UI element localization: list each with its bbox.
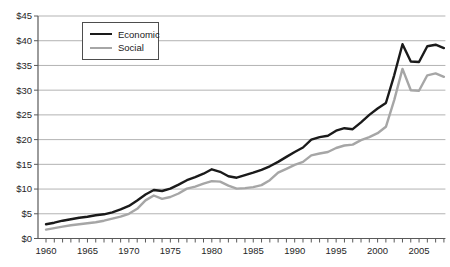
chart-canvas: $0$5$10$15$20$25$30$35$40$45196019651970… <box>0 0 450 267</box>
legend-label-social: Social <box>118 43 144 53</box>
economic-line-swatch-icon <box>90 33 112 35</box>
y-axis-label: $30 <box>16 85 32 96</box>
y-axis-label: $5 <box>21 208 32 219</box>
x-axis-label: 1975 <box>160 245 181 256</box>
y-axis-label: $45 <box>16 10 32 21</box>
x-axis-label: 1985 <box>243 245 264 256</box>
x-axis-label: 1965 <box>77 245 98 256</box>
social-line <box>46 69 444 230</box>
chart-legend: Economic Social <box>82 22 159 60</box>
legend-item-economic: Economic <box>90 30 158 40</box>
x-axis-label: 1960 <box>35 245 56 256</box>
y-axis-label: $10 <box>16 183 32 194</box>
y-axis-label: $25 <box>16 109 32 120</box>
y-axis-label: $15 <box>16 159 32 170</box>
x-axis-label: 1980 <box>201 245 222 256</box>
x-axis-label: 1970 <box>118 245 139 256</box>
y-axis-label: $20 <box>16 134 32 145</box>
legend-label-economic: Economic <box>118 30 160 40</box>
y-axis-label: $40 <box>16 35 32 46</box>
social-line-swatch-icon <box>90 47 112 49</box>
y-axis-label: $0 <box>21 233 32 244</box>
x-axis-label: 1995 <box>326 245 347 256</box>
legend-item-social: Social <box>90 43 158 53</box>
x-axis-label: 2005 <box>408 245 429 256</box>
line-chart: $0$5$10$15$20$25$30$35$40$45196019651970… <box>0 0 450 267</box>
y-axis-label: $35 <box>16 60 32 71</box>
x-axis-label: 2000 <box>367 245 388 256</box>
x-axis-label: 1990 <box>284 245 305 256</box>
economic-line <box>46 44 444 224</box>
